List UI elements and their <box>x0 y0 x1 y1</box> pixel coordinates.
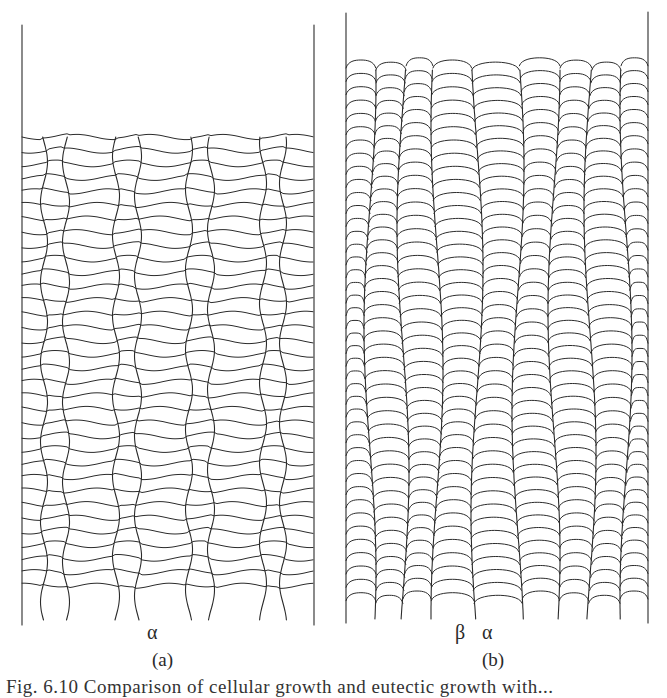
growth-front-row <box>346 461 648 473</box>
growth-front-line <box>22 229 313 235</box>
growth-front-row <box>346 279 648 291</box>
figure-caption-fragment: Fig. 6.10 Comparison of cellular growth … <box>6 676 666 698</box>
growth-front-row <box>346 578 648 590</box>
growth-front-row <box>346 513 648 525</box>
growth-front-row <box>346 71 648 83</box>
panel-a-lamellar-structure <box>22 25 314 625</box>
panel-label-b: (b) <box>482 650 504 669</box>
growth-front-line <box>22 488 313 493</box>
growth-front-row <box>346 149 648 161</box>
phase-label-beta-b: β <box>455 622 465 642</box>
growth-front-row <box>346 227 648 239</box>
growth-front-row <box>346 305 648 317</box>
growth-front-row <box>346 266 648 278</box>
cell-boundary <box>431 70 443 619</box>
lamella-boundary <box>280 137 287 620</box>
growth-front-row <box>346 539 648 551</box>
growth-front-row <box>346 566 648 578</box>
growth-front-line <box>22 324 313 330</box>
growth-front-row <box>346 526 648 538</box>
growth-front-row <box>346 318 648 330</box>
phase-label-alpha-a: α <box>147 622 157 642</box>
lamella-boundary <box>63 137 70 620</box>
growth-front-line <box>22 364 313 371</box>
growth-front-row <box>346 97 648 109</box>
growth-front-line <box>22 188 313 194</box>
growth-front-line <box>22 242 313 249</box>
growth-front-row <box>346 384 648 396</box>
growth-front-row <box>346 357 648 369</box>
growth-front-row <box>346 474 648 486</box>
growth-front-row <box>346 202 648 214</box>
growth-front-line <box>22 202 313 207</box>
growth-front-row <box>346 591 648 603</box>
growth-front-row <box>346 448 648 460</box>
growth-front-row <box>346 409 648 421</box>
lamella-boundary <box>135 137 142 620</box>
growth-front-row <box>346 214 648 226</box>
lamella-boundary <box>208 137 215 620</box>
cell-boundary <box>471 70 483 619</box>
growth-front-line <box>22 134 313 140</box>
growth-front-row <box>346 84 648 96</box>
growth-front-row <box>346 292 648 304</box>
growth-front-row <box>346 253 648 265</box>
growth-front-row <box>346 422 648 434</box>
growth-front-line <box>22 555 313 562</box>
growth-front-row <box>346 435 648 447</box>
growth-front-row <box>346 240 648 252</box>
growth-front-line <box>22 269 313 276</box>
panel-label-a: (a) <box>152 650 173 669</box>
growth-front-row <box>346 331 648 343</box>
growth-front-line <box>22 446 313 453</box>
growth-front-row <box>346 123 648 135</box>
growth-front-line <box>22 583 313 588</box>
growth-front-line <box>22 311 313 316</box>
growth-front-line <box>22 160 313 167</box>
growth-front-row <box>346 162 648 174</box>
growth-front-row <box>346 487 648 499</box>
growth-front-line <box>22 298 313 303</box>
growth-front-line <box>22 473 313 479</box>
growth-front-line <box>22 216 313 221</box>
growth-front-line <box>22 393 313 398</box>
growth-front-row <box>346 189 648 201</box>
growth-front-row <box>346 58 648 70</box>
growth-front-line <box>22 514 313 520</box>
growth-front-line <box>22 147 313 154</box>
phase-label-alpha-b: α <box>482 622 492 642</box>
growth-front-row <box>346 344 648 356</box>
growth-front-row <box>346 136 648 148</box>
growth-front-row <box>346 110 648 122</box>
growth-front-line <box>22 432 313 439</box>
growth-front-row <box>346 175 648 187</box>
growth-front-row <box>346 500 648 512</box>
growth-front-line <box>22 527 313 534</box>
growth-front-line <box>22 569 313 575</box>
growth-front-line <box>22 406 313 411</box>
growth-front-row <box>346 371 648 383</box>
panel-b-cellular-structure <box>346 12 648 623</box>
growth-front-row <box>346 553 648 565</box>
lamella-boundary <box>186 137 193 620</box>
growth-front-line <box>22 283 313 289</box>
growth-front-row <box>346 396 648 408</box>
growth-front-line <box>22 351 313 358</box>
